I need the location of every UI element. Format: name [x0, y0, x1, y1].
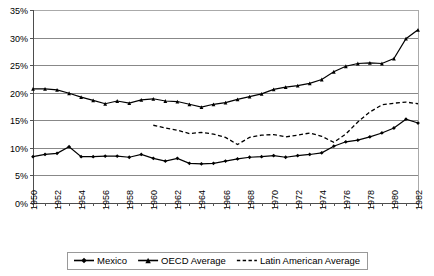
x-tick-label: 1962	[173, 190, 183, 210]
y-tick-label: 35%	[10, 6, 28, 16]
chart-legend: MexicoOECD AverageLatin American Average	[68, 253, 368, 270]
x-tick-label: 1954	[77, 190, 87, 210]
series-layer	[31, 28, 420, 166]
legend-label: Mexico	[97, 255, 127, 266]
y-tick-label: 10%	[10, 144, 28, 154]
grid-layer	[33, 11, 418, 176]
series-marker	[115, 154, 119, 158]
series-marker	[175, 156, 179, 160]
series-marker	[139, 153, 143, 157]
x-tick-label: 1974	[318, 190, 328, 210]
series-marker	[31, 155, 35, 159]
series-marker	[151, 156, 155, 160]
series-marker	[200, 162, 204, 166]
x-tick-label: 1980	[390, 190, 400, 210]
x-tick-label: 1958	[125, 190, 135, 210]
series-line-0	[33, 119, 418, 164]
axes-layer	[30, 10, 419, 207]
y-tick-label: 20%	[10, 89, 28, 99]
y-tick-label: 25%	[10, 61, 28, 71]
series-marker	[188, 161, 192, 165]
series-marker	[380, 131, 384, 135]
series-marker	[127, 155, 131, 159]
x-tick-label: 1960	[149, 190, 159, 210]
x-tick-label: 1978	[366, 190, 376, 210]
y-tick-label: 5%	[15, 171, 28, 181]
series-marker	[248, 155, 252, 159]
series-marker	[308, 153, 312, 157]
series-marker	[284, 155, 288, 159]
series-marker	[260, 155, 264, 159]
series-marker	[43, 153, 47, 157]
series-marker	[344, 140, 348, 144]
x-tick-label: 1972	[294, 190, 304, 210]
line-chart-figure: 0%5%10%15%20%25%30%35% 19501952195419561…	[0, 0, 434, 276]
x-tick-label: 1968	[246, 190, 256, 210]
xtick-labels: 1950195219541956195819601962196419661968…	[29, 190, 424, 210]
chart-container: 0%5%10%15%20%25%30%35% 19501952195419561…	[0, 0, 434, 276]
x-tick-label: 1952	[53, 190, 63, 210]
series-marker	[212, 161, 216, 165]
series-marker	[296, 154, 300, 158]
series-marker	[368, 135, 372, 139]
x-tick-label: 1956	[101, 190, 111, 210]
y-tick-label: 15%	[10, 116, 28, 126]
x-tick-label: 1976	[342, 190, 352, 210]
series-marker	[103, 154, 107, 158]
legend-label: Latin American Average	[260, 255, 360, 266]
x-tick-label: 1982	[414, 190, 424, 210]
series-latin-american-average	[153, 102, 418, 144]
series-line-1	[33, 30, 418, 107]
series-marker	[272, 154, 276, 158]
legend-label: OECD Average	[161, 255, 226, 266]
ytick-labels: 0%5%10%15%20%25%30%35%	[10, 6, 28, 209]
series-marker	[91, 155, 95, 159]
x-tick-label: 1964	[197, 190, 207, 210]
x-tick-label: 1966	[222, 190, 232, 210]
y-tick-label: 0%	[15, 199, 28, 209]
series-marker	[416, 121, 420, 125]
series-oecd-average	[31, 28, 420, 109]
series-mexico	[31, 117, 420, 165]
series-marker	[163, 159, 167, 163]
x-tick-label: 1970	[270, 190, 280, 210]
series-marker	[224, 159, 228, 163]
series-line-2	[153, 102, 418, 144]
series-marker	[356, 138, 360, 142]
plot-frame	[34, 11, 419, 204]
y-tick-label: 30%	[10, 34, 28, 44]
x-tick-label: 1950	[29, 190, 39, 210]
series-marker	[416, 28, 420, 32]
series-marker	[236, 157, 240, 161]
